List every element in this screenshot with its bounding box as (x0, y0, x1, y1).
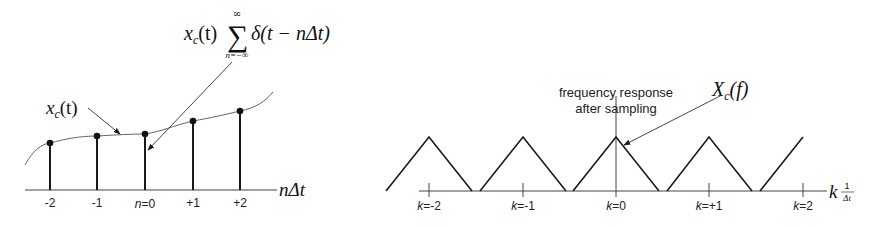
dot-n-minus-2 (47, 140, 54, 147)
replica-k-plus-2-partial (760, 137, 803, 191)
annotation-line-2: after sampling (575, 101, 657, 116)
sampled-signal-formula: xc(t) ∑ ∞ n=−∞ δ(t − nΔt) (183, 8, 330, 60)
tick-label-k-plus-2: k=2 (793, 199, 813, 213)
time-tick-labels: -2 -1 n=0 +1 +2 (45, 196, 248, 211)
svg-text:k: k (829, 181, 838, 202)
frequency-domain-panel: frequency response after sampling Xc(f) … (386, 78, 854, 213)
sample-stems (50, 111, 240, 190)
dot-n-0 (142, 131, 149, 138)
dot-n-plus-1 (190, 118, 197, 125)
sum-lower-limit: n=−∞ (225, 50, 248, 60)
dot-n-plus-2 (237, 108, 244, 115)
sampling-diagram: -2 -1 n=0 +1 +2 nΔt xc(t) xc(t) ∑ ∞ n=−∞… (0, 0, 894, 227)
tick-label-n-plus-1: +1 (186, 196, 200, 210)
sum-symbol: ∑ (227, 19, 248, 53)
spectrum-replicas (386, 137, 803, 191)
tick-label-k-minus-1: k=-1 (511, 199, 535, 213)
svg-text:xc(t): xc(t) (183, 22, 217, 47)
annotation-line-1: frequency response (559, 85, 673, 100)
sum-upper-limit: ∞ (233, 8, 241, 19)
tick-label-n-plus-2: +2 (233, 196, 247, 210)
time-axis-label: nΔt (279, 179, 306, 200)
signal-label-arrow (88, 108, 120, 134)
signal-label: xc(t) (45, 97, 78, 121)
tick-label-n-minus-2: -2 (45, 196, 56, 210)
replica-k-minus-2 (386, 137, 472, 191)
formula-arrow (148, 62, 232, 150)
tick-label-n-minus-1: -1 (92, 196, 103, 210)
delta-term: δ(t − nΔt) (251, 22, 330, 45)
replica-k-plus-1 (667, 137, 752, 191)
dot-n-minus-1 (94, 133, 101, 140)
svg-text:Δt: Δt (842, 193, 851, 203)
replica-k-minus-1 (480, 137, 566, 191)
frequency-tick-labels: k=-2 k=-1 k=0 k=+1 k=2 (417, 199, 813, 213)
tick-label-k-minus-2: k=-2 (417, 199, 441, 213)
svg-text:1: 1 (844, 181, 849, 191)
spectrum-label: Xc(f) (711, 78, 749, 103)
tick-label-n-0: n=0 (135, 197, 156, 211)
tick-label-k-plus-1: k=+1 (696, 199, 723, 213)
time-domain-panel: -2 -1 n=0 +1 +2 nΔt xc(t) xc(t) ∑ ∞ n=−∞… (25, 8, 330, 211)
tick-label-k-0: k=0 (606, 199, 626, 213)
frequency-axis-label: k 1 Δt (829, 181, 854, 203)
